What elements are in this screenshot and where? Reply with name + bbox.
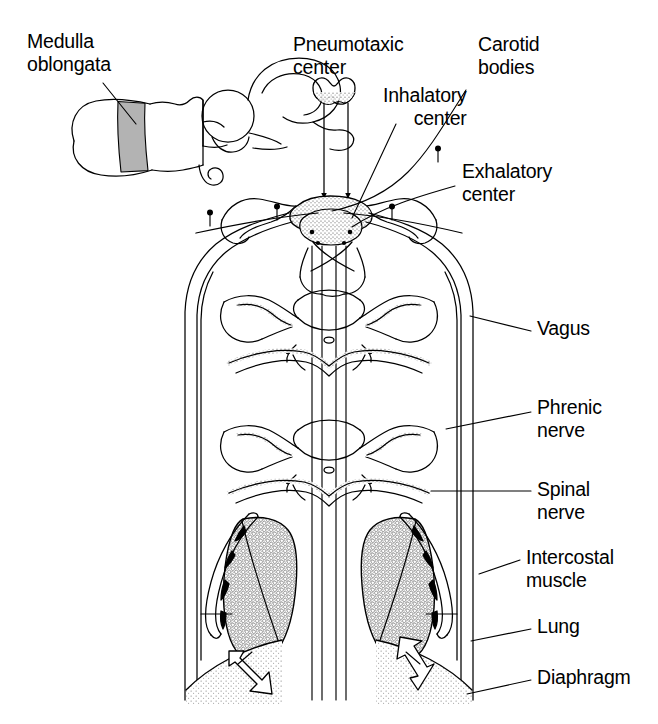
medulla-shaded-region (118, 102, 148, 173)
label-medulla-oblongata: Medulla oblongata (27, 30, 111, 76)
leader-phrenic (446, 412, 531, 429)
label-phrenic-line1: Phrenic (537, 396, 602, 418)
label-inhalatory-line2: center (383, 107, 467, 130)
label-carotid-line2: bodies (478, 56, 534, 78)
label-vagus-text: Vagus (537, 317, 590, 339)
label-exhalatory-line2: center (462, 183, 515, 205)
lung-left (223, 517, 296, 660)
label-lung-text: Lung (537, 615, 580, 637)
label-phrenic-line2: nerve (537, 419, 585, 441)
label-diaphragm: Diaphragm (537, 666, 631, 689)
carotid-body-marker (208, 210, 213, 226)
vertebra-lower-group (221, 420, 438, 506)
pneumotaxic-center-group (313, 78, 355, 105)
label-spinal-line1: Spinal (537, 478, 590, 500)
label-inhalatory-line1: Inhalatory (383, 84, 467, 107)
label-phrenic-nerve: Phrenic nerve (537, 396, 602, 442)
label-spinal-line2: nerve (537, 501, 585, 523)
label-pneumotaxic-line2: center (293, 56, 346, 78)
label-medulla-line1: Medulla (27, 30, 94, 52)
lung-right (361, 517, 434, 660)
label-spinal-nerve: Spinal nerve (537, 478, 590, 524)
label-diaphragm-text: Diaphragm (537, 666, 631, 688)
label-exhalatory-center: Exhalatory center (462, 160, 552, 206)
label-lung: Lung (537, 615, 580, 638)
label-medulla-line2: oblongata (27, 53, 111, 75)
label-pneumotaxic-line1: Pneumotaxic (293, 33, 404, 55)
leader-diaphragm (467, 680, 531, 694)
label-intercostal-muscle: Intercostal muscle (526, 546, 614, 592)
carotid-body-marker (436, 146, 441, 162)
label-intercostal-line1: Intercostal (526, 546, 614, 568)
vertebra-upper-group (221, 290, 438, 376)
leader-lung (471, 629, 531, 641)
label-vagus: Vagus (537, 317, 590, 340)
label-exhalatory-line1: Exhalatory (462, 160, 552, 182)
label-intercostal-line2: muscle (526, 569, 587, 591)
label-carotid-line1: Carotid (478, 33, 539, 55)
respiratory-control-figure: Medulla oblongata Pneumotaxic center Inh… (0, 0, 658, 724)
leader-intercostal (479, 560, 520, 574)
label-carotid-bodies: Carotid bodies (478, 33, 539, 79)
label-pneumotaxic-center: Pneumotaxic center (293, 33, 404, 79)
leader-inhalatory (352, 124, 396, 218)
leader-vagus (470, 316, 531, 331)
label-inhalatory-center: Inhalatorycenter (383, 84, 467, 130)
medulla-section-group (221, 196, 437, 296)
